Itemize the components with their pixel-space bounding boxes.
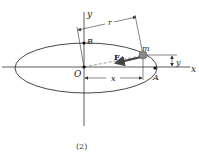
x-axis-label: x (191, 64, 196, 74)
r-dimension-line (78, 24, 105, 30)
point-b-label: B (86, 37, 93, 46)
point-origin (82, 65, 85, 68)
y-axis-label: y (86, 9, 93, 19)
y-dimension-label: y (175, 58, 181, 67)
mass-label: m (142, 44, 150, 53)
r-dimension-label: r (108, 18, 113, 27)
point-a (153, 66, 156, 69)
origin-label: O (74, 69, 82, 79)
force-label: F (114, 52, 120, 62)
r-dimension-line (114, 17, 136, 22)
elliptical-path (15, 43, 157, 93)
radius-dashed-line (84, 56, 141, 67)
r-extension-left (77, 27, 84, 67)
point-a-label: A (152, 73, 159, 82)
point-b (82, 41, 85, 44)
figure-caption: (2) (76, 142, 87, 151)
x-dimension-label: x (111, 74, 116, 83)
ellipse-orbit-diagram: y x O B A m F r x y (2) (0, 0, 199, 164)
